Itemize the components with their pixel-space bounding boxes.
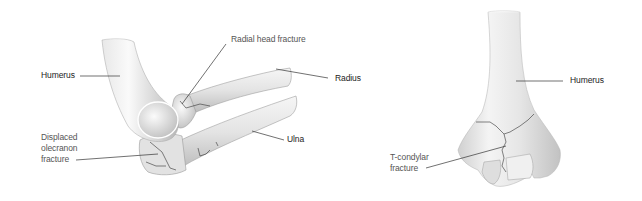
label-humerus-left: Humerus — [41, 70, 75, 81]
label-tcondylar-fracture: T-condylar fracture — [390, 152, 450, 174]
fracture-diagram: Humerus Radial head fracture Radius Ulna… — [0, 0, 642, 201]
label-ulna: Ulna — [287, 134, 304, 145]
label-olecranon-line3: fracture — [41, 154, 101, 165]
label-tcondylar-line1: T-condylar — [390, 152, 450, 163]
leader-ulna — [252, 131, 284, 140]
label-humerus-right: Humerus — [570, 75, 604, 86]
trochlea — [506, 154, 533, 180]
label-radius: Radius — [335, 73, 361, 84]
left-elbow-figure — [96, 34, 297, 175]
bone-illustrations — [0, 0, 642, 201]
label-olecranon-line2: olecranon — [41, 143, 101, 154]
humeral-condyle — [138, 102, 178, 138]
label-radial-head-fracture: Radial head fracture — [231, 34, 306, 45]
label-tcondylar-line2: fracture — [390, 163, 450, 174]
right-humerus-figure — [458, 8, 560, 186]
label-olecranon-line1: Displaced — [41, 132, 101, 143]
label-displaced-olecranon-fracture: Displaced olecranon fracture — [41, 132, 101, 165]
